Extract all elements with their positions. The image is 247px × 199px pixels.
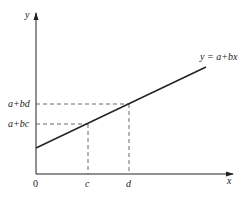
x-axis-label: x xyxy=(226,175,232,186)
function-line xyxy=(36,67,206,148)
y-axis-label: y xyxy=(24,9,30,20)
tick-label-d: d xyxy=(126,178,132,189)
tick-label-abd: a+bd xyxy=(8,98,31,109)
tick-label-c: c xyxy=(85,178,90,189)
linear-function-diagram: y x 0 c d a+bc a+bd y = a+bx xyxy=(0,0,247,199)
equation-label: y = a+bx xyxy=(199,51,238,62)
origin-label: 0 xyxy=(33,178,38,189)
tick-label-abc: a+bc xyxy=(8,118,30,129)
